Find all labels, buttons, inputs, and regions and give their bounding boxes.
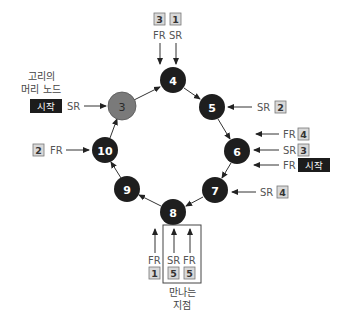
pointer-n6-fr-b: FR 시작 bbox=[254, 158, 330, 172]
edge-5-6 bbox=[218, 119, 230, 139]
node-9: 9 bbox=[114, 176, 140, 202]
caption-loop-head-line2: 머리 노드 bbox=[21, 84, 60, 95]
node-4: 4 bbox=[160, 67, 186, 93]
caption-meeting-point-line1: 만나는 bbox=[169, 287, 196, 298]
pointer-n8-fr-a: FR 1 bbox=[148, 229, 161, 279]
caption-loop-head-line1: 고리의 bbox=[28, 71, 55, 82]
pointer-label: SR bbox=[67, 101, 80, 112]
node-label: 5 bbox=[208, 102, 216, 115]
edge-4-5 bbox=[184, 88, 200, 99]
pointer-n4-fr: 3 FR bbox=[153, 13, 166, 64]
node-5: 5 bbox=[199, 94, 225, 120]
badge: 2 bbox=[33, 144, 44, 156]
badge: 1 bbox=[170, 13, 181, 25]
pointer-n6-fr-a: FR 4 bbox=[256, 128, 309, 140]
pointer-label: FR bbox=[283, 129, 296, 140]
edge-9-10 bbox=[111, 162, 121, 178]
badge: 2 bbox=[275, 101, 286, 113]
badge: 5 bbox=[184, 267, 195, 279]
badge: 4 bbox=[298, 128, 309, 140]
pointer-n5-sr: SR 2 bbox=[228, 101, 286, 113]
node-label: 10 bbox=[97, 145, 113, 158]
node-8: 8 bbox=[160, 199, 186, 225]
edge-6-7 bbox=[222, 163, 231, 178]
pointer-n8-fr-b: FR 5 bbox=[183, 229, 196, 279]
svg-text:3: 3 bbox=[300, 145, 307, 156]
pointer-label: SR bbox=[257, 102, 270, 113]
node-label: 4 bbox=[169, 75, 177, 88]
cycle-diagram: 3 4 5 6 7 8 9 10 고리의 머리 노드 시작 SR bbox=[0, 0, 346, 323]
pointer-label: FR bbox=[50, 145, 63, 156]
node-label: 8 bbox=[169, 207, 177, 220]
svg-text:4: 4 bbox=[279, 187, 286, 198]
svg-text:5: 5 bbox=[186, 268, 193, 279]
pointer-n6-sr: SR 3 bbox=[254, 144, 309, 156]
caption-meeting-point-line2: 지점 bbox=[173, 300, 191, 311]
svg-text:2: 2 bbox=[35, 145, 42, 156]
edge-10-3 bbox=[110, 119, 117, 138]
svg-text:2: 2 bbox=[277, 102, 284, 113]
badge-start: 시작 bbox=[298, 158, 330, 172]
badge: 5 bbox=[168, 267, 179, 279]
pointer-n10-fr: 2 FR bbox=[33, 144, 89, 156]
node-label: 6 bbox=[233, 146, 241, 159]
pointer-label: FR bbox=[148, 255, 161, 266]
node-6: 6 bbox=[224, 138, 250, 164]
node-label: 3 bbox=[119, 101, 126, 114]
badge: 3 bbox=[154, 13, 165, 25]
pointer-n7-sr: SR 4 bbox=[232, 186, 288, 198]
node-7: 7 bbox=[202, 177, 228, 203]
pointer-label: FR bbox=[283, 160, 296, 171]
svg-text:1: 1 bbox=[172, 14, 179, 25]
svg-text:4: 4 bbox=[300, 129, 307, 140]
svg-text:시작: 시작 bbox=[37, 101, 55, 112]
badge: 4 bbox=[277, 186, 288, 198]
svg-text:1: 1 bbox=[151, 268, 158, 279]
node-label: 9 bbox=[123, 184, 131, 197]
pointer-n8-sr: SR 5 bbox=[167, 229, 180, 279]
pointer-n4-sr: 1 SR bbox=[169, 13, 182, 64]
node-10: 10 bbox=[92, 137, 118, 163]
pointer-label: FR bbox=[153, 30, 166, 41]
edge-7-8 bbox=[186, 197, 203, 206]
svg-text:5: 5 bbox=[170, 268, 177, 279]
pointer-label: FR bbox=[183, 255, 196, 266]
node-3: 3 bbox=[108, 92, 136, 120]
pointer-label: SR bbox=[167, 255, 180, 266]
svg-text:시작: 시작 bbox=[305, 160, 323, 171]
pointer-label: SR bbox=[283, 145, 296, 156]
badge: 3 bbox=[298, 144, 309, 156]
badge-start: 시작 bbox=[30, 99, 62, 113]
node-label: 7 bbox=[211, 185, 219, 198]
svg-text:3: 3 bbox=[156, 14, 163, 25]
pointer-label: SR bbox=[260, 187, 273, 198]
pointer-n3-sr: 시작 SR bbox=[30, 99, 106, 113]
pointer-label: SR bbox=[169, 30, 182, 41]
edge-3-4 bbox=[134, 87, 160, 100]
badge: 1 bbox=[149, 267, 160, 279]
edge-8-9 bbox=[139, 195, 161, 206]
